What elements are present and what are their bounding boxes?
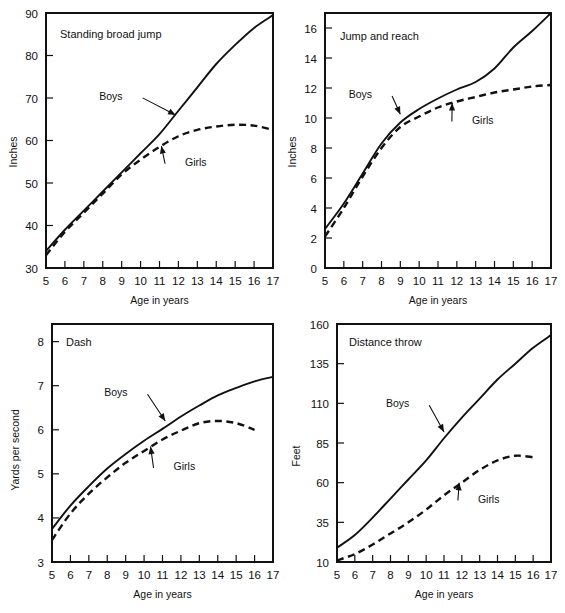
- y-tick-label: 60: [25, 135, 38, 147]
- x-tick-label: 14: [491, 569, 504, 581]
- x-tick-label: 5: [49, 569, 55, 581]
- plot-frame: [52, 324, 273, 562]
- y-tick-label: 35: [316, 517, 329, 529]
- y-tick-label: 60: [316, 477, 329, 489]
- panel-title: Jump and reach: [340, 30, 419, 42]
- y-tick-label: 2: [311, 233, 317, 245]
- y-tick-label: 4: [38, 512, 45, 524]
- x-tick-label: 5: [334, 569, 340, 581]
- x-tick-label: 13: [191, 275, 204, 287]
- x-tick-label: 12: [450, 275, 463, 287]
- x-tick-label: 13: [193, 569, 206, 581]
- y-tick-label: 90: [25, 8, 38, 20]
- x-tick-label: 17: [545, 275, 558, 287]
- y-tick-label: 70: [25, 93, 38, 105]
- series-label-girls: Girls: [472, 114, 494, 126]
- x-tick-label: 7: [81, 275, 87, 287]
- x-tick-label: 10: [413, 275, 426, 287]
- y-tick-label: 4: [311, 203, 318, 215]
- x-tick-label: 17: [267, 275, 280, 287]
- y-tick-label: 16: [304, 23, 317, 35]
- plot-frame: [325, 13, 551, 268]
- x-tick-label: 8: [378, 275, 384, 287]
- x-axis-title: Age in years: [415, 588, 473, 600]
- y-tick-label: 0: [311, 263, 317, 275]
- x-axis-title: Age in years: [409, 294, 467, 306]
- series-label-boys: Boys: [99, 90, 122, 102]
- y-tick-label: 10: [304, 113, 317, 125]
- x-tick-label: 12: [175, 569, 188, 581]
- y-tick-label: 12: [304, 83, 317, 95]
- series-curve-girls: [337, 456, 533, 561]
- y-tick-label: 10: [316, 557, 329, 569]
- panel-title: Distance throw: [349, 336, 422, 348]
- x-tick-label: 8: [100, 275, 106, 287]
- y-tick-label: 110: [311, 398, 329, 410]
- series-curve-boys: [337, 335, 551, 548]
- series-label-boys: Boys: [349, 88, 372, 100]
- x-tick-label: 17: [267, 569, 280, 581]
- leader-arrowhead: [160, 146, 166, 154]
- plot-frame: [46, 13, 273, 268]
- x-tick-label: 5: [43, 275, 49, 287]
- x-tick-label: 14: [210, 275, 223, 287]
- y-tick-label: 85: [316, 438, 329, 450]
- y-axis-title: Yards per second: [9, 409, 21, 491]
- x-tick-label: 6: [67, 569, 73, 581]
- x-tick-label: 12: [455, 569, 468, 581]
- y-axis-title: Feet: [290, 445, 302, 466]
- series-label-boys: Boys: [386, 397, 409, 409]
- x-tick-label: 6: [352, 569, 358, 581]
- x-tick-label: 11: [438, 569, 450, 581]
- y-tick-label: 135: [310, 358, 329, 370]
- y-tick-label: 3: [38, 557, 44, 569]
- series-curve-boys: [325, 13, 551, 229]
- series-curve-girls: [46, 125, 273, 256]
- y-tick-label: 5: [38, 468, 44, 480]
- series-curve-girls: [52, 421, 255, 540]
- chart-panel-3: 567891011121314151617345678BoysGirlsDash…: [0, 310, 283, 613]
- x-tick-label: 11: [157, 569, 169, 581]
- leader-arrowhead: [149, 447, 155, 455]
- x-tick-label: 12: [172, 275, 185, 287]
- y-tick-label: 50: [25, 178, 38, 190]
- series-label-girls: Girls: [478, 493, 500, 505]
- x-tick-label: 7: [86, 569, 92, 581]
- x-tick-label: 9: [122, 569, 128, 581]
- y-tick-label: 80: [25, 50, 38, 62]
- x-tick-label: 8: [387, 569, 393, 581]
- x-tick-label: 16: [248, 569, 261, 581]
- x-tick-label: 6: [341, 275, 347, 287]
- x-tick-label: 13: [469, 275, 482, 287]
- y-tick-label: 30: [25, 263, 38, 275]
- y-tick-label: 8: [38, 336, 44, 348]
- four-panel-growth-chart-figure: 56789101112131415161730405060708090BoysG…: [0, 0, 565, 613]
- y-tick-label: 7: [38, 380, 44, 392]
- x-tick-label: 9: [397, 275, 403, 287]
- x-tick-label: 9: [405, 569, 411, 581]
- series-curve-girls: [325, 85, 551, 237]
- x-tick-label: 6: [62, 275, 68, 287]
- panel-title: Dash: [66, 336, 92, 348]
- x-tick-label: 15: [229, 275, 242, 287]
- series-label-girls: Girls: [185, 156, 207, 168]
- x-tick-label: 10: [420, 569, 433, 581]
- x-axis-title: Age in years: [130, 294, 188, 306]
- y-tick-label: 6: [311, 173, 317, 185]
- x-tick-label: 16: [526, 275, 539, 287]
- x-tick-label: 5: [322, 275, 328, 287]
- x-tick-label: 17: [545, 569, 558, 581]
- y-tick-label: 40: [25, 220, 38, 232]
- x-tick-label: 15: [230, 569, 243, 581]
- y-axis-title: Inches: [7, 137, 19, 168]
- x-tick-label: 9: [118, 275, 124, 287]
- y-axis-title: Inches: [286, 137, 298, 168]
- panel-title: Standing broad jump: [60, 28, 162, 40]
- x-tick-label: 8: [104, 569, 110, 581]
- chart-panel-2: 5678910111213141516170246810121416BoysGi…: [283, 0, 565, 310]
- x-tick-label: 16: [527, 569, 540, 581]
- x-tick-label: 7: [359, 275, 365, 287]
- x-tick-label: 16: [248, 275, 261, 287]
- x-tick-label: 10: [134, 275, 147, 287]
- x-tick-label: 13: [473, 569, 486, 581]
